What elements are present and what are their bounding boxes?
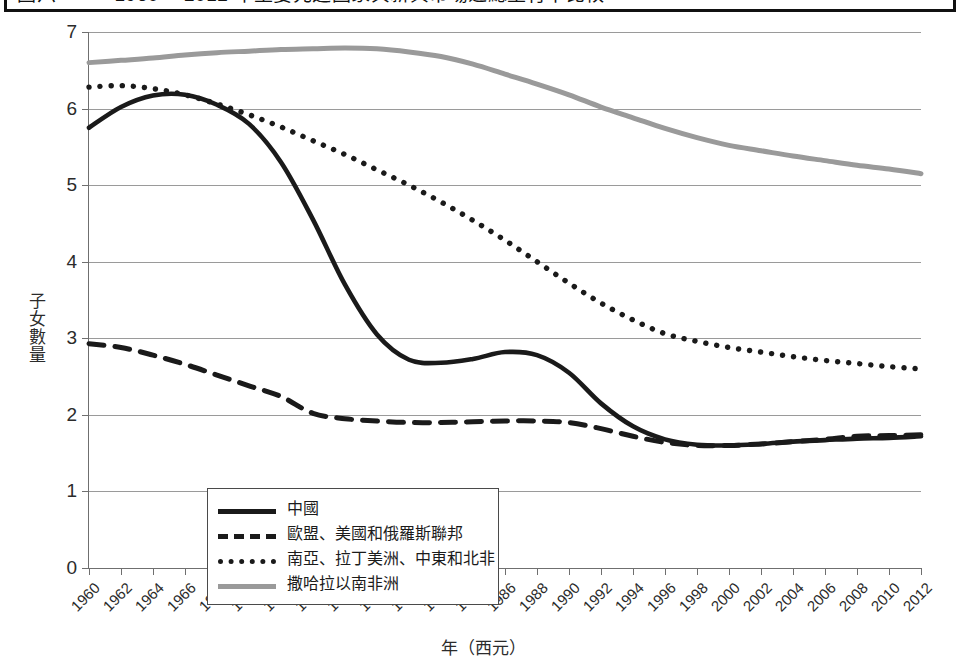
legend-item: 歐盟、美國和俄羅斯聯邦 (218, 521, 488, 546)
gridline (89, 185, 921, 186)
y-tick-mark (82, 338, 89, 339)
x-tick-mark (729, 568, 730, 575)
gridline (89, 109, 921, 110)
gridline (89, 262, 921, 263)
legend-swatch-solid-gray-icon (218, 584, 276, 589)
x-tick-mark (185, 568, 186, 575)
chart-legend: 中國 歐盟、美國和俄羅斯聯邦 南亞、拉丁美洲、中東和北非 撒哈拉以南非洲 (207, 488, 499, 605)
x-tick-mark (601, 568, 602, 575)
x-tick-mark (89, 568, 90, 575)
series-line (89, 94, 921, 446)
legend-swatch-dashed-black-icon (218, 534, 276, 539)
y-tick-mark (82, 415, 89, 416)
series-line (89, 48, 921, 174)
legend-item: 撒哈拉以南非洲 (218, 571, 488, 596)
x-tick-mark (697, 568, 698, 575)
y-tick-mark (82, 491, 89, 492)
x-tick-mark (569, 568, 570, 575)
y-tick-label: 2 (66, 404, 77, 426)
x-axis-title: 年（西元） (0, 634, 966, 659)
x-tick-mark (889, 568, 890, 575)
legend-swatch-solid-black-icon (218, 509, 276, 514)
y-tick-mark (82, 262, 89, 263)
y-tick-label: 1 (66, 480, 77, 502)
gridline (89, 338, 921, 339)
y-tick-label: 7 (66, 21, 77, 43)
gridline (89, 415, 921, 416)
legend-item: 中國 (218, 496, 488, 521)
series-line (89, 344, 921, 446)
x-tick-mark (153, 568, 154, 575)
legend-item-label: 中國 (287, 501, 319, 517)
y-tick-mark (82, 568, 89, 569)
x-tick-mark (537, 568, 538, 575)
x-tick-mark (121, 568, 122, 575)
legend-swatch-dotted-black-icon (218, 559, 276, 564)
x-tick-mark (825, 568, 826, 575)
y-axis-title: 子女數量 (27, 292, 44, 364)
series-line (89, 86, 921, 369)
chart-canvas: 子女數量 01234567 19601962196419661968197019… (0, 0, 966, 668)
legend-item: 南亞、拉丁美洲、中東和北非 (218, 546, 488, 571)
y-tick-mark (82, 185, 89, 186)
legend-item-label: 歐盟、美國和俄羅斯聯邦 (287, 526, 463, 542)
y-tick-label: 0 (66, 557, 77, 579)
chart-page: 圖六 1960 2012 年主要先進國家與新興市場之總生育率比較 子女數量 01… (0, 0, 966, 668)
y-tick-label: 3 (66, 327, 77, 349)
x-tick-mark (665, 568, 666, 575)
x-tick-mark (793, 568, 794, 575)
plot-area: 01234567 1960196219641966196819701972197… (88, 32, 921, 569)
legend-item-label: 南亞、拉丁美洲、中東和北非 (287, 551, 495, 567)
y-tick-label: 6 (66, 98, 77, 120)
y-tick-label: 5 (66, 174, 77, 196)
x-tick-mark (633, 568, 634, 575)
y-tick-mark (82, 109, 89, 110)
legend-item-label: 撒哈拉以南非洲 (287, 576, 399, 592)
x-tick-mark (761, 568, 762, 575)
x-tick-mark (857, 568, 858, 575)
y-tick-label: 4 (66, 251, 77, 273)
y-tick-mark (82, 32, 89, 33)
x-tick-mark (921, 568, 922, 575)
gridline (89, 32, 921, 33)
x-tick-mark (505, 568, 506, 575)
